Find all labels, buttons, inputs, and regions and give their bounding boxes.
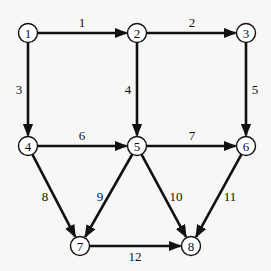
edge-label: 9 (97, 189, 104, 204)
edge-label: 1 (79, 15, 86, 30)
directed-graph: 123456789101112 12345678 (0, 0, 271, 271)
edge-label: 12 (129, 249, 142, 264)
node-label: 8 (188, 239, 195, 254)
edge-5-to-7 (85, 154, 132, 237)
edge-label: 11 (224, 189, 237, 204)
node-label: 1 (25, 26, 32, 41)
node-7: 7 (71, 237, 90, 256)
node-1: 1 (19, 24, 38, 43)
node-2: 2 (128, 24, 147, 43)
edge-label: 4 (125, 82, 132, 97)
node-4: 4 (19, 137, 38, 156)
edge-label: 10 (170, 189, 183, 204)
edge-label: 8 (42, 189, 49, 204)
edge-4-to-7 (32, 154, 75, 236)
edge-label: 3 (16, 82, 23, 97)
node-label: 5 (134, 139, 141, 154)
edge-label: 6 (79, 128, 86, 143)
node-5: 5 (128, 137, 147, 156)
node-label: 2 (134, 26, 141, 41)
node-3: 3 (237, 24, 256, 43)
node-8: 8 (182, 237, 201, 256)
arrow-icon (85, 154, 132, 237)
node-label: 6 (243, 139, 250, 154)
node-label: 7 (77, 239, 84, 254)
edge-label: 5 (252, 82, 259, 97)
edge-label: 7 (189, 128, 196, 143)
edge-label: 2 (189, 15, 196, 30)
arrow-icon (32, 154, 75, 236)
node-label: 4 (25, 139, 32, 154)
node-6: 6 (237, 137, 256, 156)
node-label: 3 (243, 26, 250, 41)
